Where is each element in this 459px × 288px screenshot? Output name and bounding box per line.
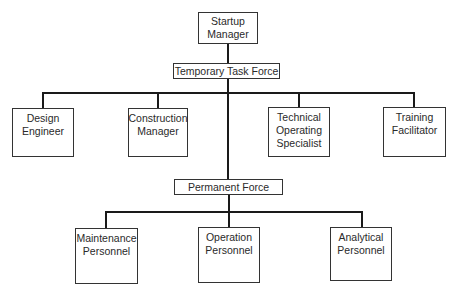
node-permanent-force: Permanent Force — [174, 179, 283, 195]
node-label: Training — [396, 111, 434, 124]
node-label: Operating — [276, 124, 322, 137]
connector-permanent-bar — [105, 211, 363, 213]
connector-to-construction-manager — [157, 92, 159, 108]
node-technical-operating-specialist: Technical Operating Specialist — [268, 107, 330, 157]
node-label: Design — [27, 112, 60, 125]
node-label: Manager — [207, 28, 248, 41]
node-label: Personnel — [337, 244, 384, 257]
connector-temporary-bar — [42, 92, 414, 94]
node-temporary-task-force: Temporary Task Force — [173, 63, 280, 79]
node-training-facilitator: Training Facilitator — [383, 107, 446, 157]
node-label: Technical — [277, 111, 321, 124]
connector-to-analytical — [361, 211, 363, 227]
node-label: Manager — [137, 125, 178, 138]
node-design-engineer: Design Engineer — [12, 108, 74, 157]
node-operation-personnel: Operation Personnel — [198, 227, 260, 283]
node-label: Temporary Task Force — [175, 65, 279, 78]
node-label: Operation — [206, 231, 252, 244]
node-startup-manager: Startup Manager — [198, 12, 258, 44]
connector-to-technical-specialist — [298, 92, 300, 107]
node-analytical-personnel: Analytical Personnel — [330, 227, 392, 281]
connector-to-maintenance — [105, 211, 107, 228]
node-label: Permanent Force — [188, 181, 269, 194]
connector-to-training-facilitator — [413, 92, 415, 107]
node-maintenance-personnel: Maintenance Personnel — [75, 228, 138, 284]
node-label: Specialist — [277, 137, 322, 150]
connector-startup-to-temporary — [227, 44, 229, 63]
node-label: Facilitator — [392, 124, 438, 137]
node-label: Analytical — [339, 231, 384, 244]
connector-to-design-engineer — [42, 92, 44, 108]
node-label: Startup — [211, 15, 245, 28]
node-label: Personnel — [205, 244, 252, 257]
node-label: Construction — [129, 112, 188, 125]
node-label: Personnel — [83, 245, 130, 258]
node-construction-manager: Construction Manager — [128, 108, 188, 157]
node-label: Maintenance — [76, 232, 136, 245]
node-label: Engineer — [22, 125, 64, 138]
org-chart-diagram: Startup Manager Temporary Task Force Des… — [0, 0, 459, 288]
